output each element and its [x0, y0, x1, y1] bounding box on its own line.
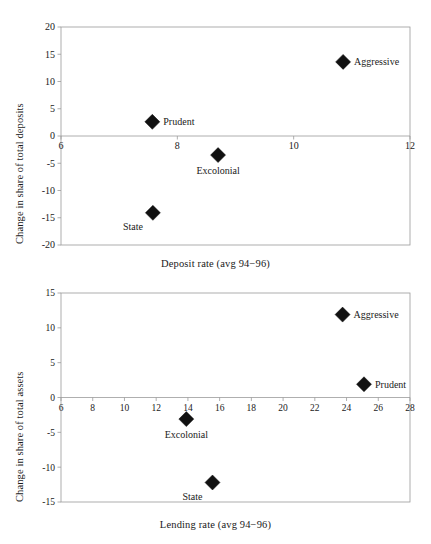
diamond-marker-icon [145, 114, 160, 129]
data-points: AggressivePrudentExcolonialState [123, 54, 400, 232]
data-point-label: Prudent [163, 116, 194, 127]
y-axis-ticks: 151050-5-10-15 [42, 288, 61, 507]
data-point-aggressive[interactable]: Aggressive [336, 54, 400, 69]
y-tick-label: -5 [47, 428, 55, 438]
data-point-prudent[interactable]: Prudent [356, 377, 406, 392]
data-point-label: Aggressive [354, 56, 400, 67]
data-point-label: Aggressive [354, 309, 400, 320]
x-tick-label: 16 [215, 403, 225, 413]
x-tick-label: 24 [342, 403, 352, 413]
data-point-label: State [123, 221, 144, 232]
data-point-state[interactable]: State [123, 205, 161, 232]
diamond-marker-icon [179, 412, 194, 427]
data-point-state[interactable]: State [182, 475, 220, 502]
x-tick-label: 10 [289, 140, 299, 151]
y-tick-label: -10 [42, 463, 55, 473]
y-axis-ticks: 20151050-5-10-15-20 [42, 21, 61, 250]
x-tick-label: 14 [183, 403, 193, 413]
x-tick-label: 22 [310, 403, 320, 413]
y-tick-label: 0 [50, 393, 55, 403]
y-tick-label: 15 [46, 288, 56, 298]
x-tick-label: 12 [405, 140, 415, 151]
y-axis-title-assets: Change in share of total assets [14, 371, 25, 502]
scatter-plot-deposits: 20151050-5-10-15-20681012AggressivePrude… [0, 0, 431, 252]
x-tick-label: 8 [90, 403, 95, 413]
y-tick-label: 10 [45, 76, 55, 87]
diamond-marker-icon [356, 377, 371, 392]
scatter-plot-assets: 151050-5-10-156810121416182022242628Aggr… [0, 280, 431, 512]
y-tick-label: -15 [42, 497, 55, 507]
x-axis-title-assets: Lending rate (avg 94−96) [0, 519, 431, 530]
x-tick-label: 6 [59, 403, 64, 413]
y-tick-label: 5 [50, 358, 55, 368]
y-tick-label: 5 [50, 103, 55, 114]
x-tick-label: 18 [247, 403, 257, 413]
x-axis-ticks: 681012 [59, 136, 416, 151]
data-point-label: Excolonial [196, 165, 240, 176]
x-axis-title-deposits: Deposit rate (avg 94−96) [0, 258, 431, 269]
x-tick-label: 26 [374, 403, 384, 413]
x-tick-label: 20 [278, 403, 288, 413]
y-tick-label: -5 [47, 158, 55, 169]
diamond-marker-icon [145, 205, 160, 220]
data-point-excolonial[interactable]: Excolonial [196, 148, 240, 176]
data-point-label: Excolonial [165, 429, 209, 440]
diamond-marker-icon [336, 54, 351, 69]
x-tick-label: 28 [405, 403, 415, 413]
figure-deposit-rate: 20151050-5-10-15-20681012AggressivePrude… [0, 0, 431, 280]
diamond-marker-icon [335, 307, 350, 322]
x-axis-ticks: 6810121416182022242628 [59, 398, 415, 413]
data-point-excolonial[interactable]: Excolonial [165, 412, 209, 440]
x-tick-label: 8 [175, 140, 180, 151]
y-tick-label: 0 [50, 130, 55, 141]
y-tick-label: -20 [42, 239, 55, 250]
y-tick-label: -15 [42, 212, 55, 223]
y-tick-label: 15 [45, 49, 55, 60]
x-tick-label: 10 [120, 403, 130, 413]
y-tick-label: -10 [42, 185, 55, 196]
diamond-marker-icon [205, 475, 220, 490]
x-tick-label: 12 [151, 403, 161, 413]
y-tick-label: 20 [45, 21, 55, 32]
y-tick-label: 10 [46, 323, 56, 333]
data-point-label: Prudent [375, 379, 406, 390]
figure-lending-rate: 151050-5-10-156810121416182022242628Aggr… [0, 280, 431, 544]
x-tick-label: 6 [59, 140, 64, 151]
y-axis-title-deposits: Change in share of total deposits [14, 103, 25, 244]
data-point-label: State [182, 491, 203, 502]
data-point-aggressive[interactable]: Aggressive [335, 307, 399, 322]
data-point-prudent[interactable]: Prudent [145, 114, 195, 129]
diamond-marker-icon [211, 148, 226, 163]
